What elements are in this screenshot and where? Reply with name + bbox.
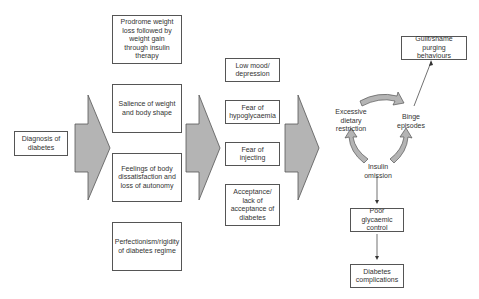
- arrow-to-guilt: [414, 62, 431, 106]
- guilt-label: Guilt/shame purging behaviours: [406, 35, 462, 61]
- block-arrow-2: [186, 95, 220, 200]
- perfectionism-label: Perfectionism/rigidity of diabetes regim…: [115, 238, 180, 255]
- fear-injecting-box: Fear of injecting: [225, 142, 280, 166]
- prodrome-label: Prodrome weight loss followed by weight …: [117, 18, 177, 61]
- fear-hypoglycaemia-box: Fear of hypoglycaemia: [225, 100, 280, 124]
- prodrome-box: Prodrome weight loss followed by weight …: [112, 15, 182, 64]
- dissatisfaction-label: Feelings of body dissatisfaction and los…: [117, 165, 177, 191]
- perfectionism-box: Perfectionism/rigidity of diabetes regim…: [112, 222, 182, 271]
- restriction-label: Excessive dietary restriction: [326, 108, 376, 134]
- omission-label: Insulin omission: [360, 163, 396, 180]
- arrowhead-glycaemic: [375, 200, 379, 204]
- low-mood-label: Low mood/ depression: [230, 62, 275, 79]
- acceptance-label: Acceptance/ lack of acceptance of diabet…: [230, 188, 275, 222]
- arrowhead-complications: [375, 256, 379, 260]
- diagnosis-label: Diagnosis of diabetes: [19, 135, 63, 152]
- fear-hypoglycaemia-label: Fear of hypoglycaemia: [229, 104, 276, 121]
- salience-box: Salience of weight and body shape: [112, 84, 182, 133]
- diagnosis-box: Diagnosis of diabetes: [14, 131, 68, 156]
- cycle-arrow-right: [390, 128, 412, 163]
- glycaemic-label: Poor glycaemic control: [355, 207, 399, 233]
- block-arrow-1: [75, 95, 110, 200]
- salience-label: Salience of weight and body shape: [117, 100, 177, 117]
- dissatisfaction-box: Feelings of body dissatisfaction and los…: [112, 153, 182, 202]
- cycle-arrow-top: [360, 92, 404, 106]
- low-mood-box: Low mood/ depression: [225, 58, 280, 82]
- complications-box: Diabetes complications: [350, 264, 404, 288]
- acceptance-box: Acceptance/ lack of acceptance of diabet…: [225, 184, 280, 226]
- binge-label: Binge episodes: [391, 113, 431, 130]
- glycaemic-box: Poor glycaemic control: [350, 208, 404, 232]
- block-arrow-3: [285, 95, 319, 200]
- arrowhead-guilt: [429, 60, 433, 66]
- guilt-box: Guilt/shame purging behaviours: [401, 36, 467, 60]
- fear-injecting-label: Fear of injecting: [230, 146, 275, 163]
- complications-label: Diabetes complications: [355, 268, 399, 285]
